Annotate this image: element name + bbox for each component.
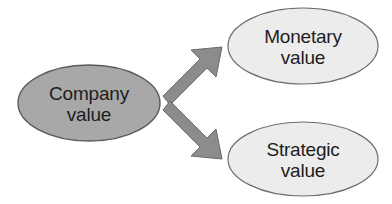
- monetary-value-label-line2: value: [281, 47, 325, 68]
- concept-map-svg: Company value Monetary value Strategic v…: [0, 0, 392, 204]
- arrow-up-right-shape: [163, 47, 222, 105]
- diagram-canvas: Company value Monetary value Strategic v…: [0, 0, 392, 204]
- edge-company-to-monetary[interactable]: [163, 47, 222, 105]
- edge-company-to-strategic[interactable]: [163, 101, 222, 159]
- node-company-value[interactable]: Company value: [18, 65, 160, 141]
- strategic-value-label-line2: value: [281, 160, 325, 181]
- strategic-value-label-line1: Strategic: [266, 139, 339, 160]
- node-monetary-value[interactable]: Monetary value: [228, 8, 378, 84]
- node-strategic-value[interactable]: Strategic value: [228, 122, 378, 196]
- company-value-label-line1: Company: [49, 83, 130, 104]
- monetary-value-label-line1: Monetary: [264, 26, 342, 47]
- arrow-down-right-shape: [163, 101, 222, 159]
- company-value-label-line2: value: [67, 104, 111, 125]
